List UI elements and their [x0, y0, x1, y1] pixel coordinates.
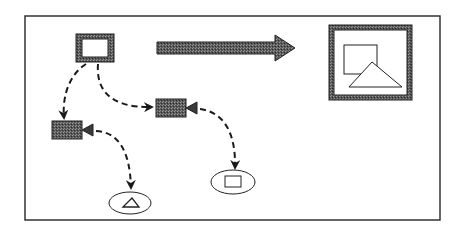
- viewport-triangle-icon: [109, 192, 151, 214]
- diagram-canvas: [0, 0, 463, 231]
- source-frame-icon: [76, 34, 114, 62]
- result-frame-icon: [329, 25, 412, 100]
- viewport-square-icon: [211, 170, 255, 194]
